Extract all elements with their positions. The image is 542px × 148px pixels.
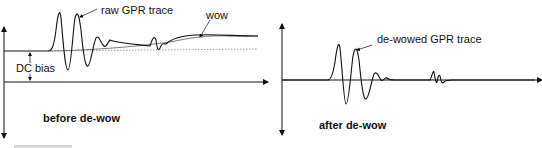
raw-trace-leader: [80, 9, 97, 17]
dc-bias-label: DC bias: [16, 63, 55, 74]
dewowed-gpr-trace-label: de-wowed GPR trace: [377, 34, 482, 45]
dewow-diagram: [0, 0, 542, 148]
dewowed-gpr-trace: [282, 44, 535, 104]
after-panel-title: after de-wow: [319, 120, 386, 131]
raw-gpr-trace-label: raw GPR trace: [101, 5, 173, 16]
before-panel-title: before de-wow: [43, 113, 120, 124]
dewowed-trace-leader: [357, 45, 372, 50]
decorative-grey-bar: [14, 145, 72, 148]
wow-label: wow: [206, 10, 228, 21]
